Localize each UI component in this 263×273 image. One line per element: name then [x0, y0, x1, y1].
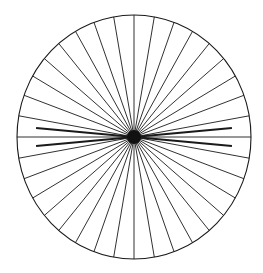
spoked-wheel-figure: [0, 0, 263, 273]
figure-root: [0, 0, 263, 273]
wheel-hub: [127, 130, 141, 144]
